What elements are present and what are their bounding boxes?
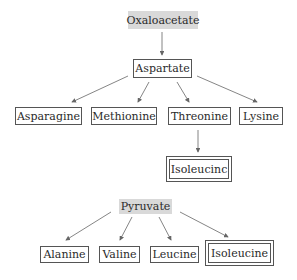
node-isoleucine-from-pyruvate: Isoleucine <box>205 240 274 266</box>
node-pyruvate: Pyruvate <box>119 199 172 214</box>
node-threonine: Threonine <box>168 107 231 125</box>
arrow-pyruvate-valine <box>120 217 132 240</box>
node-valine: Valine <box>99 246 140 263</box>
node-asparagine: Asparagine <box>15 107 82 125</box>
arrow-pyruvate-leucine <box>159 217 171 240</box>
node-oxaloacetate: Oxaloacetate <box>128 11 198 29</box>
arrow-aspartate-threonine <box>177 82 189 102</box>
arrow-aspartate-asparagine <box>72 76 128 102</box>
edge-layer <box>0 0 297 280</box>
node-isoleucine-label: Isoleucinc <box>169 159 229 179</box>
node-aspartate: Aspartate <box>133 59 192 78</box>
arrow-aspartate-methionine <box>138 82 149 102</box>
node-alanine: Alanine <box>40 246 89 263</box>
node-lysine: Lysine <box>239 107 283 125</box>
arrow-pyruvate-isoleucine <box>180 212 228 237</box>
node-isoleucine-label: Isoleucine <box>208 243 271 263</box>
node-leucine: Leucine <box>150 246 199 263</box>
arrow-aspartate-lysine <box>197 76 257 102</box>
node-methionine: Methionine <box>91 107 157 125</box>
node-isoleucine-from-threonine: Isoleucinc <box>166 156 232 182</box>
arrow-pyruvate-alanine <box>66 212 111 240</box>
